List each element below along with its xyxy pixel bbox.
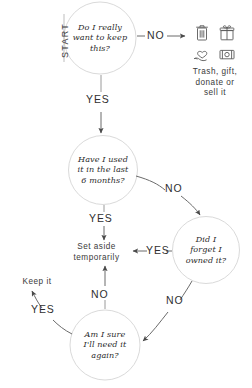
edge-label-no-1: NO xyxy=(147,29,165,41)
outcome-discard-label: Trash, gift, donate or sell it xyxy=(178,67,252,99)
edge-label-yes-1: YES xyxy=(86,93,110,105)
outcome-icons-group xyxy=(192,24,237,63)
edge-q2-no-upper xyxy=(136,176,165,190)
node-label-q2: Have I used it in the last 6 months? xyxy=(67,154,139,185)
edge-label-no-3: NO xyxy=(166,294,184,306)
node-label-q3: Did I forget I owned it? xyxy=(172,234,240,265)
edge-q3-no-lower xyxy=(143,312,168,341)
money-cash-icon xyxy=(217,45,237,63)
edge-label-no-4: NO xyxy=(91,288,109,300)
edge-label-yes-3: YES xyxy=(146,244,170,256)
node-label-q4: Am I sure I'll need it again? xyxy=(69,329,141,360)
edge-label-yes-4: YES xyxy=(31,303,55,315)
edge-label-no-2: NO xyxy=(165,182,183,194)
edge-q2-no-lower xyxy=(181,196,200,215)
outcome-setaside-label: Set aside temporarily xyxy=(60,242,133,263)
gift-box-icon xyxy=(217,24,237,42)
flowchart-canvas: START Do I really want to keep this? Hav… xyxy=(0,0,252,388)
edge-label-yes-2: YES xyxy=(89,212,113,224)
outcome-keep-label: Keep it xyxy=(12,277,62,288)
donate-hand-heart-icon xyxy=(192,45,212,63)
node-label-q1: Do I really want to keep this? xyxy=(64,22,136,53)
trash-can-icon xyxy=(192,24,212,42)
